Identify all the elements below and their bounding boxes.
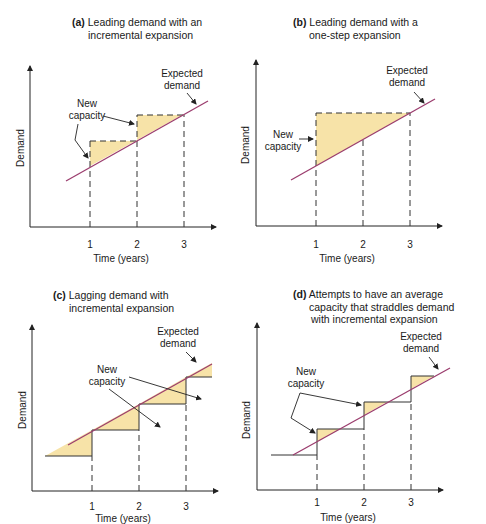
new-capacity-label: capacity	[89, 376, 126, 387]
tick-1: 1	[313, 239, 319, 250]
new-capacity-label: capacity	[265, 141, 302, 152]
capacity-shortfall-fill	[186, 363, 212, 377]
expected-demand-label: Expected	[400, 331, 442, 342]
tick-2: 2	[361, 497, 367, 508]
panel-c: 1 2 3 Time (years) Demand New capacity E…	[17, 325, 218, 524]
tick-1: 1	[314, 497, 320, 508]
tick-2: 2	[136, 501, 142, 512]
new-capacity-label: New	[273, 129, 294, 140]
expected-demand-label: demand	[160, 338, 196, 349]
arrow-icon	[75, 124, 88, 158]
expected-demand-label: Expected	[386, 65, 428, 76]
arrow-icon	[187, 93, 196, 104]
arrow-icon	[429, 357, 438, 369]
arrow-icon	[291, 393, 315, 433]
y-axis-label: Demand	[17, 391, 28, 429]
expected-demand-label: Expected	[161, 68, 203, 79]
expected-demand-line	[291, 99, 435, 180]
y-axis-label: Demand	[241, 401, 252, 439]
capacity-shortfall-fill	[92, 404, 139, 430]
panel-d: 1 2 3 Time (years) Demand New capacity E…	[241, 323, 450, 523]
x-axis-label: Time (years)	[95, 513, 151, 524]
expected-demand-label: demand	[164, 80, 200, 91]
x-axis-label: Time (years)	[93, 253, 149, 264]
arrow-icon	[300, 393, 361, 405]
tick-2: 2	[134, 239, 140, 250]
expected-demand-label: demand	[389, 77, 425, 88]
tick-2: 2	[360, 239, 366, 250]
capacity-shortfall-fill	[45, 430, 92, 456]
tick-3: 3	[408, 497, 414, 508]
capacity-shortfall-fill	[139, 377, 186, 404]
new-capacity-label: capacity	[69, 110, 106, 121]
new-capacity-label: New	[296, 366, 317, 377]
panel-a: 1 2 3 Time (years) Demand New capacity E…	[15, 66, 216, 264]
arrow-icon	[103, 116, 134, 124]
capacity-dashed-lines	[90, 115, 184, 227]
tick-3: 3	[407, 239, 413, 250]
tick-3: 3	[181, 239, 187, 250]
new-capacity-label: capacity	[288, 378, 325, 389]
tick-1: 1	[87, 239, 93, 250]
panel-b: 1 2 3 Time (years) Demand New capacity E…	[240, 60, 442, 264]
arrow-icon	[186, 352, 196, 362]
new-capacity-label: New	[97, 364, 118, 375]
x-axis-label: Time (years)	[320, 512, 376, 523]
capacity-strategy-diagram: 1 2 3 Time (years) Demand New capacity E…	[0, 0, 486, 524]
new-capacity-label: New	[77, 98, 98, 109]
arrow-icon	[414, 92, 424, 103]
tick-1: 1	[89, 501, 95, 512]
x-axis-label: Time (years)	[319, 253, 375, 264]
y-axis-label: Demand	[240, 126, 251, 164]
y-axis-label: Demand	[15, 129, 26, 167]
expected-demand-label: Expected	[157, 326, 199, 337]
expected-demand-label: demand	[403, 343, 439, 354]
tick-3: 3	[183, 501, 189, 512]
capacity-surplus-fill	[90, 140, 137, 166]
